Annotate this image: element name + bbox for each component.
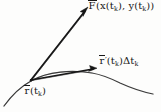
tangent-symbol: r bbox=[99, 56, 105, 66]
force-arg-close: )) bbox=[146, 0, 154, 11]
force-symbol: F bbox=[88, 1, 96, 11]
force-vector-label: F(x(tk), y(tk)) bbox=[88, 1, 154, 12]
position-paren-close: ) bbox=[42, 85, 46, 96]
position-symbol: r bbox=[24, 86, 30, 96]
vector-origin bbox=[30, 79, 33, 82]
tangent-delta-sub-k: k bbox=[134, 60, 138, 68]
vector-diagram-figure: F(x(tk), y(tk)) r′(tk)Δtk r(tk) bbox=[0, 0, 161, 112]
force-arrow bbox=[31, 7, 88, 80]
force-arg-mid: ), y( bbox=[118, 0, 138, 11]
position-vector-label: r(tk) bbox=[24, 86, 46, 97]
tangent-vector-label: r′(tk)Δtk bbox=[99, 56, 138, 67]
force-arg-open: (x( bbox=[96, 0, 110, 11]
